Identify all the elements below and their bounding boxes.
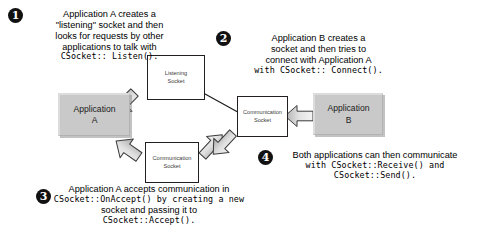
step-2-line-4: with CSocket:: Connect().: [231, 66, 406, 76]
communication-socket-b-label-line1: Communication: [153, 155, 192, 163]
socket-flow-diagram: Listening Socket Application A Communica…: [0, 0, 483, 244]
node-communication-socket-a[interactable]: Communication Socket: [237, 96, 288, 137]
step-4-badge: 4: [258, 150, 273, 165]
step-1-caption: Application A creates a "listening" sock…: [22, 9, 197, 62]
step-2-caption: Application B creates a socket and then …: [231, 33, 406, 75]
communication-socket-a-label-line1: Communication: [243, 109, 282, 117]
step-1-line-2: "listening" socket and then: [22, 20, 197, 31]
step-1-line-5: CSocket:: Listen().: [22, 52, 197, 62]
application-b-label-line2: B: [346, 115, 352, 126]
step-4-line-3: CSocket::Send().: [275, 171, 475, 181]
node-application-a[interactable]: Application A: [58, 93, 130, 136]
application-a-label-line2: A: [92, 115, 98, 126]
node-application-b[interactable]: Application B: [313, 93, 383, 135]
listening-socket-label-line2: Socket: [167, 78, 184, 86]
arrow-new-socket-to-app-a: [109, 132, 145, 167]
step-3-line-4: CSocket::Accept().: [53, 216, 245, 226]
communication-socket-a-label-line2: Socket: [254, 117, 271, 125]
step-1-badge: 1: [8, 8, 23, 23]
application-b-label-line1: Application: [327, 103, 369, 114]
node-communication-socket-b[interactable]: Communication Socket: [145, 142, 199, 183]
step-3-badge: 3: [36, 189, 51, 204]
communication-socket-b-label-line2: Socket: [163, 163, 180, 171]
step-4-caption: Both applications can then communicate w…: [275, 150, 475, 181]
step-3-caption: Application A accepts communication in C…: [53, 184, 245, 226]
step-1-line-1: Application A creates a: [22, 9, 197, 20]
arrow-app-b-to-socket: [285, 106, 313, 127]
listening-socket-label-line1: Listening: [165, 70, 187, 78]
step-2-line-2: socket and then tries to: [231, 44, 406, 55]
application-a-label-line1: Application: [73, 104, 115, 115]
step-2-badge: 2: [216, 31, 231, 46]
step-2-line-1: Application B creates a: [231, 33, 406, 44]
step-2-line-3: connect with Application A: [231, 55, 406, 66]
step-3-line-3: socket and passing it to: [53, 205, 245, 216]
step-3-line-2: CSocket::OnAccept() by creating a new: [53, 195, 245, 205]
step-1-line-3: looks for requests by other: [22, 31, 197, 42]
